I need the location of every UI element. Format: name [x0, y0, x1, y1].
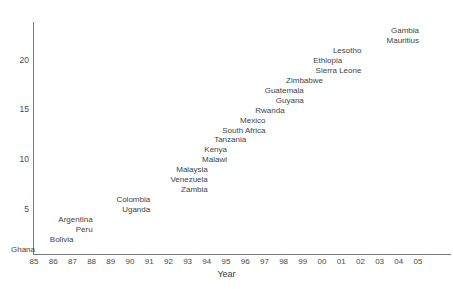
x-tick-99: 99 [294, 257, 312, 266]
x-tick-85: 85 [25, 257, 43, 266]
point-label-bolivia: Bolivia [50, 234, 74, 243]
point-label-rwanda: Rwanda [255, 105, 284, 114]
point-label-argentina: Argentina [58, 214, 92, 223]
x-tick-97: 97 [255, 257, 273, 266]
point-label-ghana: Ghana [11, 244, 35, 253]
point-label-guyana: Guyana [276, 95, 304, 104]
x-tick-04: 04 [390, 257, 408, 266]
point-label-gambia: Gambia [391, 26, 419, 35]
x-axis-title: Year [0, 269, 453, 279]
point-label-colombia: Colombia [116, 195, 150, 204]
point-label-malaysia: Malaysia [176, 165, 208, 174]
x-tick-90: 90 [121, 257, 139, 266]
x-tick-02: 02 [351, 257, 369, 266]
x-tick-93: 93 [179, 257, 197, 266]
y-tick-label: 15 [0, 105, 29, 114]
x-tick-94: 94 [198, 257, 216, 266]
point-label-mauritius: Mauritius [387, 36, 419, 45]
point-label-zimbabwe: Zimbabwe [286, 75, 323, 84]
point-label-peru: Peru [76, 224, 93, 233]
x-tick-96: 96 [236, 257, 254, 266]
x-tick-89: 89 [102, 257, 120, 266]
x-tick-86: 86 [44, 257, 62, 266]
point-label-south-africa: South Africa [222, 125, 265, 134]
point-label-sierra-leone: Sierra Leone [316, 65, 362, 74]
x-tick-87: 87 [63, 257, 81, 266]
point-label-lesotho: Lesotho [333, 46, 361, 55]
point-label-tanzania: Tanzania [214, 135, 246, 144]
x-tick-95: 95 [217, 257, 235, 266]
point-label-guatemala: Guatemala [265, 85, 304, 94]
x-tick-88: 88 [83, 257, 101, 266]
y-axis-line [33, 22, 34, 255]
point-label-uganda: Uganda [122, 205, 150, 214]
x-tick-01: 01 [332, 257, 350, 266]
scatter-chart: 5101520 85868788899091929394959697989900… [0, 0, 453, 289]
x-tick-05: 05 [409, 257, 427, 266]
point-label-venezuela: Venezuela [170, 175, 207, 184]
point-label-malawi: Malawi [202, 155, 227, 164]
point-label-kenya: Kenya [204, 145, 227, 154]
x-tick-98: 98 [275, 257, 293, 266]
x-tick-03: 03 [371, 257, 389, 266]
point-label-ethiopia: Ethiopia [313, 56, 342, 65]
y-tick-label: 10 [0, 155, 29, 164]
x-tick-91: 91 [140, 257, 158, 266]
point-label-zambia: Zambia [181, 185, 208, 194]
x-axis-line [33, 254, 451, 255]
x-tick-92: 92 [159, 257, 177, 266]
y-tick-label: 20 [0, 56, 29, 65]
x-tick-00: 00 [313, 257, 331, 266]
point-label-mexico: Mexico [240, 115, 265, 124]
y-tick-label: 5 [0, 205, 29, 214]
